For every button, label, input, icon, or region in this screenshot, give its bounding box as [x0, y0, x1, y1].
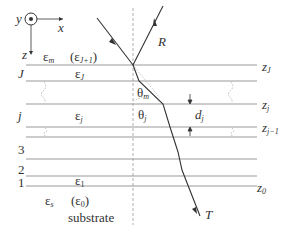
thickness-label: dj: [195, 108, 204, 123]
substrate-eps-alt: (ε0): [71, 194, 89, 209]
reflected-label: R: [158, 35, 166, 48]
substrate-eps: εs: [45, 194, 54, 209]
rays: [97, 6, 200, 216]
theta-j-label: θj: [138, 108, 146, 123]
layer-j-eps: εj: [75, 109, 83, 124]
ambient-eps-alt: (εJ+1): [70, 50, 97, 65]
layer-j-index: j: [18, 109, 22, 122]
thickness-marker: [188, 94, 192, 136]
incident-ray: [97, 18, 133, 65]
y-axis-label: y: [16, 12, 22, 25]
layer-J-index: J: [18, 67, 24, 80]
x-axis-label: x: [58, 21, 64, 34]
z-axis-label: z: [22, 48, 27, 61]
multilayer-diagram: y x z εm (εJ+1) J εJ zJ θm j εj zj θj dj…: [0, 0, 283, 237]
ambient-eps: εm: [43, 50, 54, 65]
z-j-label: zj: [262, 98, 269, 113]
z-0-label: z0: [257, 181, 266, 196]
z-J-label: zJ: [262, 60, 271, 75]
z-j-1-label: zj−1: [262, 121, 279, 136]
layer-3-index: 3: [18, 143, 25, 156]
theta-m-label: θm: [137, 86, 149, 101]
layer-1-index: 1: [18, 176, 25, 189]
transmitted-label: T: [205, 208, 212, 221]
layer-J-eps: εJ: [75, 67, 84, 82]
substrate-label: substrate: [68, 211, 114, 224]
layer-1-eps: ε1: [75, 174, 84, 189]
